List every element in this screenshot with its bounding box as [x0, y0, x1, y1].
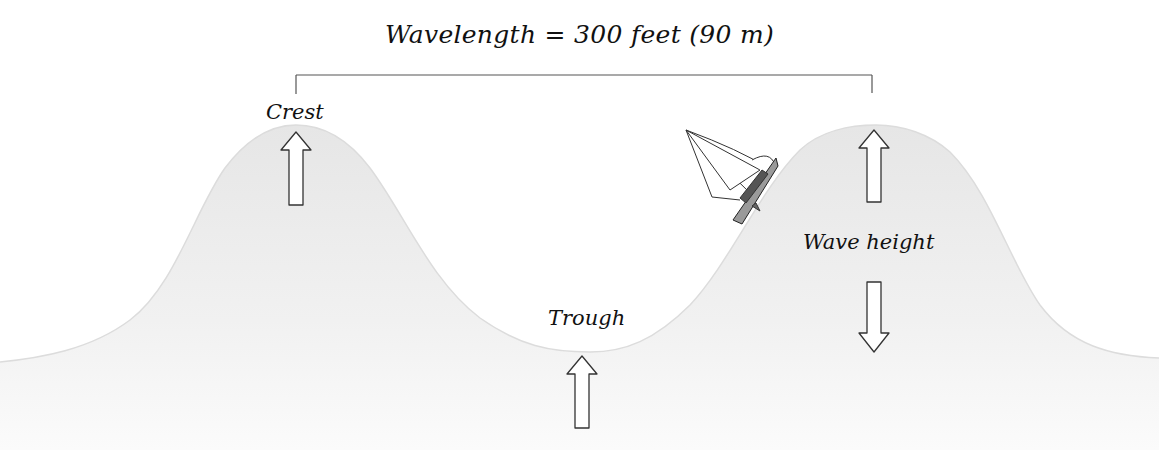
wave-diagram: Wavelength = 300 feet (90 m) Crest Wave …	[0, 0, 1159, 450]
trough-label: Trough	[548, 306, 625, 330]
wavelength-label: Wavelength = 300 feet (90 m)	[0, 20, 1159, 49]
crest-label: Crest	[266, 100, 324, 124]
wave-illustration	[0, 0, 1159, 450]
wave-height-label: Wave height	[803, 230, 934, 254]
wavelength-bracket	[296, 75, 872, 94]
